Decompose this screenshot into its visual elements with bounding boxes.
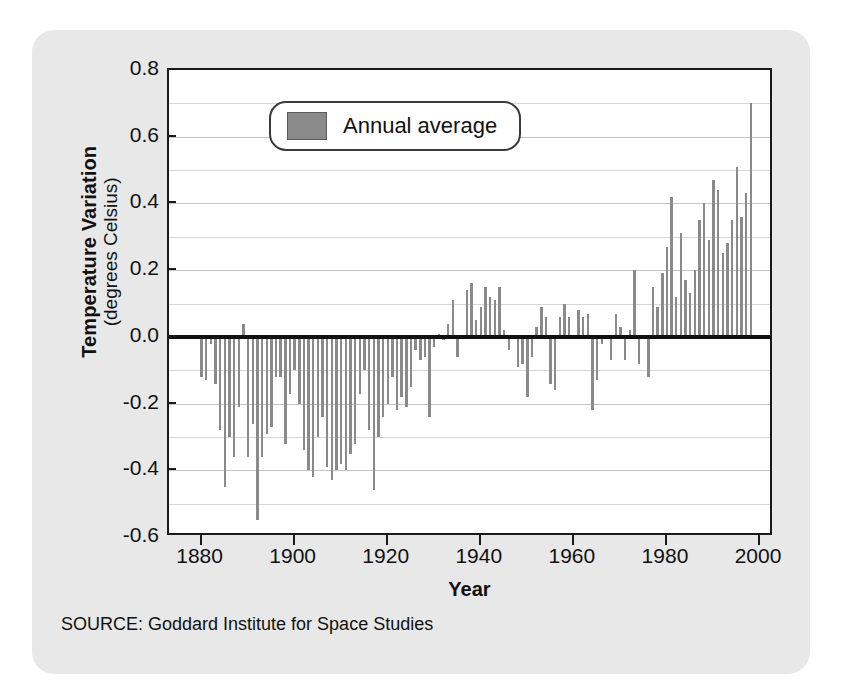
bar	[275, 337, 277, 377]
bar	[456, 337, 458, 357]
bar	[745, 193, 747, 336]
legend-swatch-annual-average	[287, 112, 327, 140]
bar	[307, 337, 309, 470]
bar	[228, 337, 230, 437]
bar	[610, 337, 612, 360]
bar	[293, 337, 295, 370]
bar	[335, 337, 337, 470]
bar	[554, 337, 556, 390]
bar	[321, 337, 323, 417]
bar	[312, 337, 314, 477]
bar	[675, 297, 677, 337]
x-axis-tick-label: 1880	[155, 545, 245, 566]
bar	[233, 337, 235, 457]
bar	[368, 337, 370, 430]
bar	[284, 337, 286, 444]
bar	[349, 337, 351, 454]
source-note: SOURCE: Goddard Institute for Space Stud…	[61, 614, 433, 635]
bar	[577, 310, 579, 337]
bar	[317, 337, 319, 437]
bar	[363, 337, 365, 370]
bar	[489, 297, 491, 337]
bar	[382, 337, 384, 417]
x-axis-title: Year	[167, 578, 772, 601]
bar	[638, 337, 640, 364]
bar	[387, 337, 389, 404]
bar	[480, 307, 482, 337]
bar	[424, 337, 426, 357]
bar	[717, 190, 719, 337]
x-axis-tick-label: 1960	[527, 545, 617, 566]
bar	[303, 337, 305, 450]
bar	[224, 337, 226, 487]
bar	[331, 337, 333, 480]
bar	[340, 337, 342, 464]
x-axis-tick-label: 1940	[434, 545, 524, 566]
bar	[647, 337, 649, 377]
bar	[582, 317, 584, 337]
chart-legend: Annual average	[269, 101, 521, 151]
bar	[219, 337, 221, 430]
bar	[405, 337, 407, 407]
bar	[270, 337, 272, 427]
bar	[633, 270, 635, 337]
bar	[279, 337, 281, 377]
bar	[549, 337, 551, 384]
bar	[736, 167, 738, 337]
bar	[428, 337, 430, 417]
bar	[266, 337, 268, 434]
bar	[261, 337, 263, 457]
bar	[596, 337, 598, 380]
bar	[466, 290, 468, 337]
x-axis-tick-label: 1980	[620, 545, 710, 566]
y-axis-tick-mark	[167, 135, 176, 137]
bar	[521, 337, 523, 364]
bar	[568, 317, 570, 337]
chart-card: 0.80.60.40.20.0-0.2-0.4-0.6 188019001920…	[32, 30, 810, 674]
bar	[391, 337, 393, 377]
bar	[694, 270, 696, 337]
zero-baseline	[169, 335, 770, 339]
bar	[205, 337, 207, 380]
bar	[559, 317, 561, 337]
x-axis-tick-label: 1920	[341, 545, 431, 566]
bar	[214, 337, 216, 384]
bar	[247, 337, 249, 457]
bar	[703, 203, 705, 336]
bar	[410, 337, 412, 387]
y-axis-title: Temperature Variation (degrees Celsius)	[78, 102, 122, 402]
bar	[666, 247, 668, 337]
bar	[345, 337, 347, 470]
bar	[359, 337, 361, 394]
bar	[419, 337, 421, 360]
y-axis-tick-label: -0.4	[99, 457, 159, 478]
bar	[591, 337, 593, 410]
bar	[200, 337, 202, 377]
y-axis-title-sub: (degrees Celsius)	[101, 102, 122, 402]
screenshot-root: 0.80.60.40.20.0-0.2-0.4-0.6 188019001920…	[0, 0, 841, 690]
bar	[298, 337, 300, 404]
x-axis-tick-labels: 1880190019201940196019802000	[167, 537, 772, 571]
bar	[452, 300, 454, 337]
bar	[731, 220, 733, 337]
y-axis-tick-mark	[167, 402, 176, 404]
temperature-variation-bar-chart: 0.80.60.40.20.0-0.2-0.4-0.6 188019001920…	[32, 30, 810, 674]
bar	[680, 233, 682, 336]
bar	[652, 287, 654, 337]
bar	[698, 220, 700, 337]
bar	[517, 337, 519, 367]
bar	[750, 103, 752, 337]
bar	[494, 300, 496, 337]
y-axis-tick-mark	[167, 468, 176, 470]
bar	[484, 287, 486, 337]
bar	[722, 253, 724, 336]
x-axis-tick-label: 1900	[248, 545, 338, 566]
y-axis-tick-mark	[167, 335, 176, 337]
bar	[354, 337, 356, 444]
bar	[708, 240, 710, 337]
y-axis-tick-mark	[167, 201, 176, 203]
bar	[531, 337, 533, 357]
bar	[661, 273, 663, 336]
bar	[498, 287, 500, 337]
bar	[684, 280, 686, 337]
